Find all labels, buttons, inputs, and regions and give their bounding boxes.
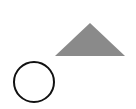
diagram-canvas [0,0,136,109]
outline-circle-shape [14,62,54,102]
gray-triangle-shape [55,23,125,56]
